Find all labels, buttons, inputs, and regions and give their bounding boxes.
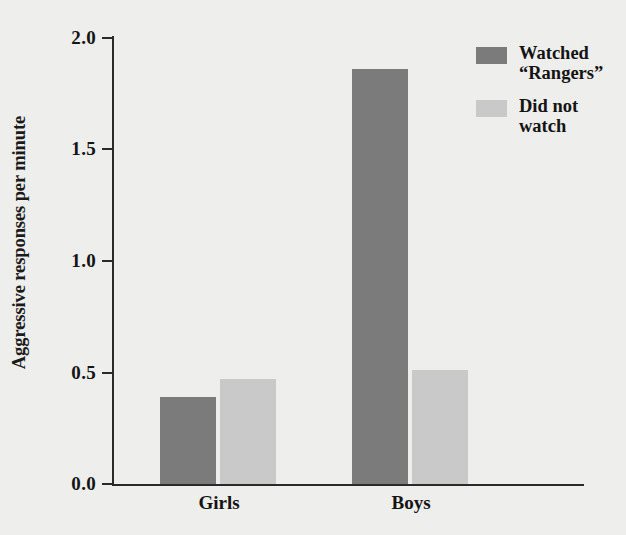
bar-girls-watched — [160, 397, 216, 484]
y-axis-title: Aggressive responses per minute — [2, 0, 36, 510]
bar-boys-not-watched — [412, 370, 468, 484]
legend-swatch-watched — [476, 47, 507, 64]
legend-swatch-not-watched — [476, 100, 507, 117]
x-label-girls: Girls — [198, 492, 239, 514]
legend-item-not-watched: Did not watch — [476, 97, 626, 137]
y-tick-label-1.5: 1.5 — [32, 138, 96, 160]
y-tick-label-2.0: 2.0 — [32, 27, 96, 49]
legend-item-watched: Watched “Rangers” — [476, 44, 626, 84]
y-tick-label-0.5: 0.5 — [32, 362, 96, 384]
legend-label-watched: Watched “Rangers” — [519, 44, 603, 84]
y-tick-label-1.0: 1.0 — [32, 250, 96, 272]
x-axis-line — [112, 484, 584, 486]
bar-girls-not-watched — [220, 379, 276, 484]
bar-chart: Aggressive responses per minute 2.0 1.5 … — [0, 0, 626, 535]
legend-label-not-watched: Did not watch — [519, 97, 578, 137]
y-tick-label-0.0: 0.0 — [32, 473, 96, 495]
bar-boys-watched — [352, 69, 408, 484]
x-label-boys: Boys — [391, 492, 430, 514]
legend: Watched “Rangers” Did not watch — [476, 44, 626, 150]
